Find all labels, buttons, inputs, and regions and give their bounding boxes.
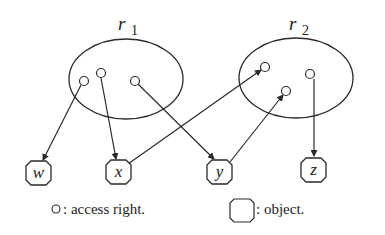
role-r1-subscript: 1 [131,23,138,38]
access-right-icon [306,70,315,79]
object-z: z [301,158,326,182]
object-y: y [207,160,232,184]
object-legend-icon [230,199,254,222]
role-r2-subscript: 2 [302,23,309,38]
role-r2-ellipse [239,38,353,118]
role-r1: r 1 [69,13,183,119]
edge-y-to-r2 [230,95,283,162]
role-r1-label: r [118,13,126,34]
access-right-icon [80,77,89,86]
legend-access-right: : access right. [63,201,145,217]
access-right-icon [261,63,270,72]
edge-x-to-r2 [128,70,261,164]
object-x-label: x [114,162,123,181]
edge-r1-to-y [138,84,214,159]
object-w-label: w [33,163,45,182]
legend: : access right. : object. [52,199,304,222]
object-x: x [106,160,131,184]
object-y-label: y [214,162,224,181]
role-r2: r 2 [239,13,353,118]
edge-r1-to-w [43,85,81,160]
access-right-icon [97,69,106,78]
role-r2-label: r [289,13,297,34]
access-right-legend-icon [52,205,60,213]
access-right-icon [282,87,291,96]
object-w: w [26,161,51,185]
object-z-label: z [309,160,317,179]
access-right-diagram: r 1 r 2 w x y z [0,0,385,235]
legend-object: : object. [256,201,304,217]
